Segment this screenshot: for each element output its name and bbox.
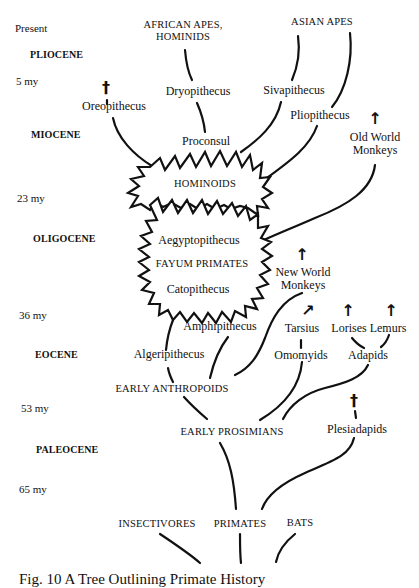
label-hominoids: HOMINOIDS [174, 178, 236, 190]
branch-bats [276, 534, 295, 562]
branch-amphipithecus [210, 337, 228, 378]
label-african-apes: AFRICAN APES, HOMINIDS [143, 19, 222, 42]
branch-african-apes [185, 50, 192, 80]
label-lemurs: Lemurs [370, 322, 407, 335]
new-world-monkeys-line2: Monkeys [281, 278, 326, 292]
label-aegyptopithecus: Aegyptopithecus [158, 234, 239, 247]
time-23my: 23 my [17, 192, 45, 204]
living-arrow-up-icon: ↑ [384, 303, 397, 319]
label-amphipithecus: Amphipithecus [183, 320, 256, 333]
label-pliopithecus: Pliopithecus [290, 109, 349, 122]
branch-algeripithecus-down [168, 368, 173, 382]
epoch-oligocene: OLIGOCENE [33, 233, 96, 244]
label-tarsius: Tarsius [285, 322, 320, 335]
label-plesiadapids: Plesiadapids [327, 423, 387, 436]
label-adapids: Adapids [348, 349, 388, 362]
branch-dryopithecus [197, 103, 205, 132]
branch-early-anthropoids [184, 397, 207, 419]
label-catopithecus: Catopithecus [167, 283, 230, 296]
branch-lemurs [381, 335, 389, 347]
label-oreopithecus: Oreopithecus [82, 100, 146, 113]
african-apes-line1: AFRICAN APES, [143, 19, 222, 30]
epoch-pliocene: PLIOCENE [30, 49, 83, 60]
label-early-prosimians: EARLY PROSIMIANS [181, 426, 284, 438]
branch-sivapithecus-up [292, 36, 299, 80]
living-arrow-up-icon: ↑ [295, 247, 308, 263]
living-arrow-up-icon: ↑ [341, 303, 354, 319]
epoch-paleocene: PALEOCENE [36, 444, 98, 455]
branch-omomyids [260, 362, 302, 420]
label-early-anthropoids: EARLY ANTHROPOIDS [115, 383, 228, 395]
label-proconsul: Proconsul [182, 135, 230, 148]
time-36my: 36 my [19, 309, 47, 321]
label-old-world-monkeys: Old World Monkeys [350, 131, 400, 157]
label-asian-apes: ASIAN APES [291, 16, 353, 28]
extinct-dagger-icon: † [350, 393, 358, 409]
old-world-monkeys-line2: Monkeys [353, 143, 398, 157]
time-53my: 53 my [21, 402, 49, 414]
branch-sivapithecus-down [241, 102, 281, 152]
branch-early-prosimians [220, 443, 236, 509]
label-bats: BATS [287, 517, 313, 529]
figure-caption: Fig. 10 A Tree Outlining Primate History [19, 571, 265, 588]
time-65my: 65 my [19, 483, 47, 495]
branch-oreopithecus [113, 118, 152, 166]
living-arrow-up-icon: ↑ [368, 111, 381, 127]
branch-pliopithecus-down [264, 126, 317, 180]
label-new-world-monkeys: New World Monkeys [275, 266, 330, 292]
label-fayum-primates: FAYUM PRIMATES [156, 258, 248, 270]
african-apes-line2: HOMINIDS [156, 31, 210, 42]
label-sivapithecus: Sivapithecus [263, 84, 324, 97]
branch-lorises [352, 338, 364, 348]
epoch-miocene: MIOCENE [31, 129, 81, 140]
time-present: Present [15, 22, 47, 34]
extinct-dagger-icon: † [102, 80, 110, 96]
branch-old-world-monkeys [264, 165, 375, 240]
branch-plesiadapids-stub [355, 411, 356, 418]
branch-pliopithecus-up [332, 33, 351, 107]
time-5my: 5 my [16, 75, 38, 87]
new-world-monkeys-line1: New World [275, 265, 330, 279]
label-algeripithecus: Algeripithecus [134, 348, 205, 361]
old-world-monkeys-line1: Old World [350, 130, 400, 144]
branch-primates-base [240, 534, 241, 563]
living-arrow-diagonal-icon: ↗ [301, 303, 314, 319]
label-omomyids: Omomyids [274, 349, 327, 362]
label-dryopithecus: Dryopithecus [166, 85, 231, 98]
epoch-eocene: EOCENE [35, 349, 78, 360]
branch-insectivores [160, 534, 200, 563]
label-insectivores: INSECTIVORES [118, 518, 195, 530]
label-lorises: Lorises [331, 322, 366, 335]
branch-algeripithecus-up [166, 320, 173, 350]
label-primates: PRIMATES [214, 518, 266, 530]
branch-plesiadapids [262, 438, 354, 509]
